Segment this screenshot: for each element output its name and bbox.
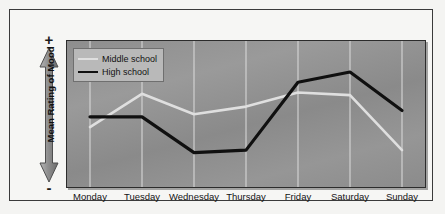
- legend-label-middle-school: Middle school: [102, 54, 157, 64]
- x-axis-label-friday: Friday: [285, 191, 311, 202]
- legend-item-middle-school: Middle school: [78, 52, 157, 65]
- legend-label-high-school: High school: [102, 67, 149, 77]
- y-axis-label: Mean Rating of Mood: [45, 35, 56, 155]
- legend-swatch-high-school: [78, 71, 98, 73]
- x-axis-label-thursday: Thursday: [226, 191, 266, 202]
- y-axis: + Mean Rating of Mood -: [32, 34, 66, 194]
- x-axis-labels: MondayTuesdayWednesdayThursdayFridaySatu…: [66, 191, 428, 207]
- y-axis-minus-symbol: -: [32, 182, 66, 194]
- figure-card: + Mean Rating of Mood -: [9, 9, 433, 201]
- x-axis-label-saturday: Saturday: [331, 191, 369, 202]
- x-axis-label-wednesday: Wednesday: [169, 191, 219, 202]
- legend-item-high-school: High school: [78, 65, 157, 78]
- legend-swatch-middle-school: [78, 58, 98, 60]
- chart-figure: + Mean Rating of Mood -: [0, 0, 445, 214]
- legend: Middle school High school: [73, 48, 164, 82]
- x-axis-label-monday: Monday: [73, 191, 107, 202]
- x-axis-label-tuesday: Tuesday: [124, 191, 160, 202]
- x-axis-label-sunday: Sunday: [386, 191, 418, 202]
